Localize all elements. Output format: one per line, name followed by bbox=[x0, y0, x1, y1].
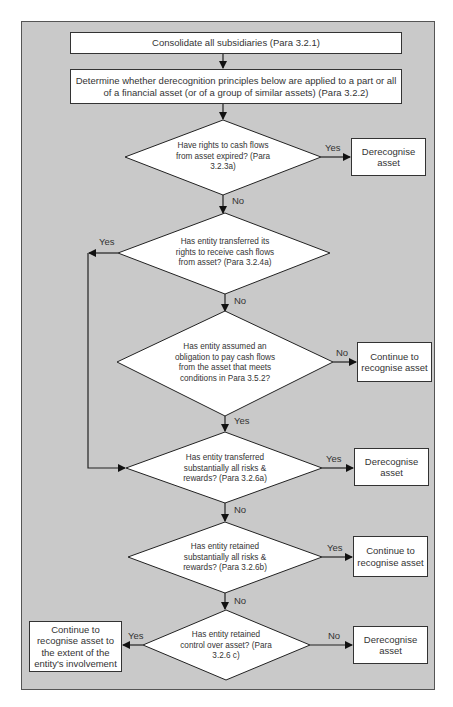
outcome-continue-recognise-extent: Continue to recognise asset to the exten… bbox=[29, 621, 122, 672]
label-d6-no: No bbox=[328, 631, 340, 641]
step-consolidate-subsidiaries: Consolidate all subsidiaries (Para 3.2.1… bbox=[70, 32, 402, 54]
decision-control-retained: Has entity retained control over asset? … bbox=[180, 629, 272, 663]
step-text: Consolidate all subsidiaries (Para 3.2.1… bbox=[152, 37, 320, 49]
label-d4-no: No bbox=[234, 505, 246, 515]
outcome-continue-recognise-2: Continue to recognise asset bbox=[353, 536, 428, 577]
outcome-derecognise-2: Derecognise asset bbox=[354, 448, 429, 486]
decision-obligation-assumed: Has entity assumed an obligation to pay … bbox=[172, 334, 278, 392]
label-d4-yes: Yes bbox=[326, 454, 342, 464]
label-d1-yes: Yes bbox=[325, 143, 341, 153]
label-d3-yes: Yes bbox=[234, 416, 250, 426]
label-d6-yes: Yes bbox=[128, 631, 144, 641]
label-d1-no: No bbox=[232, 196, 244, 206]
decision-rights-transferred: Has entity transferred its rights to rec… bbox=[172, 227, 278, 279]
label-d2-yes: Yes bbox=[99, 237, 115, 247]
outcome-derecognise-1: Derecognise asset bbox=[351, 138, 426, 176]
label-d5-yes: Yes bbox=[327, 543, 343, 553]
outcome-derecognise-3: Derecognise asset bbox=[353, 626, 428, 664]
decision-rights-expired: Have rights to cash flows from asset exp… bbox=[170, 138, 276, 176]
step-text: Determine whether derecognition principl… bbox=[74, 75, 398, 99]
decision-risks-rewards-retained: Has entity retained substantially all ri… bbox=[170, 541, 280, 575]
label-d3-no: No bbox=[336, 348, 348, 358]
label-d2-no: No bbox=[234, 296, 246, 306]
label-d5-no: No bbox=[234, 596, 246, 606]
step-determine-derecognition-scope: Determine whether derecognition principl… bbox=[70, 69, 402, 104]
outcome-continue-recognise-1: Continue to recognise asset bbox=[357, 342, 432, 382]
decision-risks-rewards-transferred: Has entity transferred substantially all… bbox=[170, 452, 280, 486]
